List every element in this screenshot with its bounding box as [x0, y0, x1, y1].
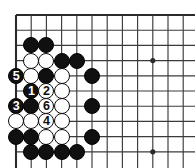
move-number-label: 4: [43, 115, 50, 128]
go-diagram-figure: 512364: [0, 0, 195, 168]
white-stone[interactable]: [38, 53, 54, 69]
white-stone[interactable]: [38, 129, 54, 145]
black-stone[interactable]: [54, 144, 70, 160]
white-stone[interactable]: [54, 129, 70, 145]
black-stone[interactable]: [54, 53, 70, 69]
white-stone[interactable]: [54, 98, 70, 114]
move-number-label: 3: [13, 99, 20, 112]
black-stone[interactable]: [23, 129, 39, 145]
move-number-label: 6: [43, 99, 50, 112]
go-board[interactable]: 512364: [0, 0, 195, 168]
black-stone[interactable]: [23, 144, 39, 160]
black-stone[interactable]: [69, 144, 85, 160]
move-number-label: 1: [28, 84, 35, 97]
white-stone[interactable]: [54, 113, 70, 129]
black-stone[interactable]: [84, 129, 100, 145]
white-stone[interactable]: [23, 68, 39, 84]
star-point: [150, 58, 155, 63]
star-point: [150, 149, 155, 154]
black-stone[interactable]: [69, 53, 85, 69]
white-stone[interactable]: [23, 53, 39, 69]
black-stone[interactable]: [84, 68, 100, 84]
white-stone[interactable]: [54, 83, 70, 99]
move-number-label: 2: [43, 84, 50, 97]
black-stone[interactable]: 5: [8, 68, 24, 84]
move-number-label: 5: [13, 69, 20, 82]
black-stone[interactable]: [8, 129, 24, 145]
white-stone[interactable]: [54, 68, 70, 84]
